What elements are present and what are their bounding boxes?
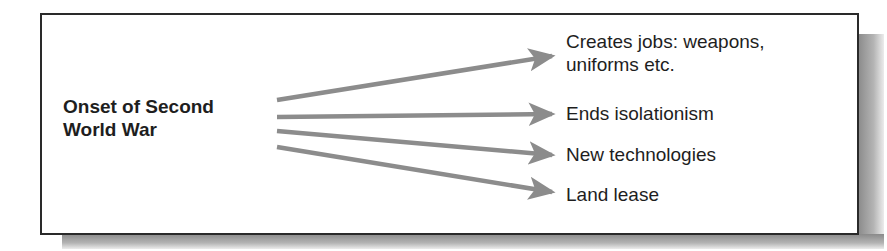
- arrow-4: [277, 147, 552, 192]
- effect-item-1-line1: Creates jobs: weapons,: [566, 30, 765, 53]
- arrow-3: [277, 131, 552, 155]
- effect-item-2: Ends isolationism: [566, 102, 714, 125]
- effect-item-4: Land lease: [566, 183, 659, 206]
- effect-item-3: New technologies: [566, 143, 716, 166]
- arrow-2: [277, 114, 552, 117]
- effect-item-1: Creates jobs: weapons, uniforms etc.: [566, 30, 765, 76]
- effect-item-1-line2: uniforms etc.: [566, 53, 765, 76]
- arrow-1: [277, 56, 552, 100]
